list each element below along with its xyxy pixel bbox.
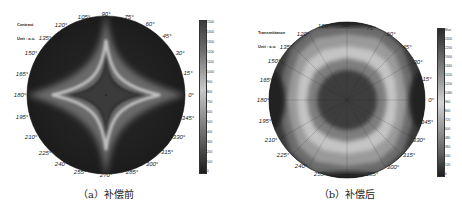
- colorbar-tick: 1660: [445, 64, 452, 68]
- angle-label: 300°: [387, 164, 399, 170]
- colorbar-tick: 1100: [207, 60, 214, 64]
- angle-label: 240°: [295, 163, 307, 169]
- angle-label: 90°: [101, 11, 110, 17]
- colorbar-tick: 720: [445, 118, 450, 122]
- colorbar-tick: 2400: [445, 37, 452, 41]
- angle-label: 225°: [39, 150, 51, 156]
- colorbar-tick: 800: [207, 90, 212, 94]
- angle-label: 315°: [161, 149, 173, 155]
- angle-label: 180°: [14, 92, 26, 98]
- colorbar-tick: Max: [445, 28, 451, 32]
- colorbar-tick: 120: [445, 163, 450, 167]
- angle-label: 210°: [25, 134, 37, 140]
- colorbar-tick: 240: [445, 154, 450, 158]
- colorbar-tick: 2200: [445, 46, 452, 50]
- angle-label: 45°: [402, 44, 411, 50]
- colorbar-tick: 480: [445, 136, 450, 140]
- angle-label: 150°: [25, 50, 37, 56]
- colorbar-tick: 1420: [445, 73, 452, 77]
- angle-label: 135°: [39, 35, 51, 41]
- angle-label: 120°: [55, 22, 67, 28]
- angle-label: 345°: [421, 119, 433, 125]
- colorbar-tick: 1500: [207, 20, 214, 24]
- colorbar-tick: 1200: [445, 82, 452, 86]
- angle-label: 225°: [277, 152, 289, 158]
- plot-title-text: Transmittance: [258, 31, 285, 36]
- angle-label: 60°: [145, 21, 154, 27]
- angle-label: 330°: [173, 134, 185, 140]
- colorbar-tick: 500: [207, 120, 212, 124]
- angle-label: 195°: [259, 118, 271, 124]
- colorbar-tick: 600: [207, 110, 212, 114]
- angle-label: 270°: [100, 172, 112, 178]
- radial-labels-a: [105, 94, 107, 96]
- colorbar-a: [199, 20, 207, 174]
- angle-label: 345°: [182, 115, 194, 121]
- angle-label: 0°: [188, 92, 194, 98]
- colorbar-tick: 1080: [445, 91, 452, 95]
- angle-label: 105°: [318, 23, 330, 29]
- caption-a: （a）补偿前: [78, 186, 134, 201]
- angle-label: 60°: [386, 31, 395, 37]
- plot-units-text: Unit : a.u.: [17, 37, 35, 42]
- colorbar-tick: 400: [207, 130, 212, 134]
- angle-label: 270°: [341, 173, 353, 179]
- angle-label: 75°: [366, 25, 375, 31]
- angle-label: 15°: [422, 76, 431, 82]
- angle-label: 75°: [124, 14, 133, 20]
- colorbar-tick: 840: [445, 109, 450, 113]
- colorbar-tick: 900: [207, 80, 212, 84]
- colorbar-tick: 600: [445, 127, 450, 131]
- angle-label: 165°: [260, 77, 272, 83]
- caption-b: （b）补偿后: [319, 186, 375, 201]
- angle-label: 300°: [146, 161, 158, 167]
- colorbar-tick: 300: [207, 140, 212, 144]
- colorbar-tick: 200: [207, 150, 212, 154]
- angle-label: 210°: [265, 137, 277, 143]
- angle-label: 45°: [162, 33, 171, 39]
- colorbar-tick: 0: [445, 172, 447, 176]
- angle-label: 0°: [428, 97, 434, 103]
- colorbar-b: [437, 28, 445, 177]
- angle-label: 120°: [297, 31, 309, 37]
- chart-panel-b: Transmittance Unit : a.u. 0° 15° 30° 45°…: [231, 0, 462, 207]
- angle-label: 105°: [78, 14, 90, 20]
- colorbar-tick: 1000: [207, 70, 214, 74]
- angle-label: 180°: [257, 97, 269, 103]
- angle-label: 255°: [314, 171, 326, 177]
- colorbar-tick: 700: [207, 100, 212, 104]
- colorbar-tick: 0: [207, 169, 209, 173]
- colorbar-tick: 1400: [207, 30, 214, 34]
- plot-title-b: Transmittance Unit : a.u.: [258, 22, 285, 58]
- colorbar-tick: 1200: [207, 50, 214, 54]
- plot-title-a: Contrast Unit : a.u.: [17, 14, 35, 50]
- angle-label: 240°: [55, 161, 67, 167]
- angle-label: 135°: [280, 44, 292, 50]
- angle-label: 285°: [126, 169, 138, 175]
- angle-label: 30°: [413, 59, 422, 65]
- colorbar-tick: 360: [445, 145, 450, 149]
- colorbar-tick: 1300: [207, 40, 214, 44]
- angle-label: 285°: [366, 171, 378, 177]
- colorbar-tick: 1900: [445, 55, 452, 59]
- angle-label: 165°: [16, 71, 28, 77]
- colorbar-tick: 960: [445, 100, 450, 104]
- angle-label: 15°: [183, 70, 192, 76]
- angle-label: 330°: [413, 137, 425, 143]
- plot-title-text: Contrast: [17, 23, 35, 28]
- angle-label: 315°: [403, 152, 415, 158]
- angle-label: 90°: [342, 22, 351, 28]
- angle-label: 30°: [175, 50, 184, 56]
- chart-panel-a: Contrast Unit : a.u. 0° 15° 30° 45° 60° …: [0, 0, 231, 207]
- angle-label: 195°: [16, 114, 28, 120]
- angle-label: 255°: [74, 169, 86, 175]
- angle-label: 150°: [268, 58, 280, 64]
- colorbar-tick: 100: [207, 160, 212, 164]
